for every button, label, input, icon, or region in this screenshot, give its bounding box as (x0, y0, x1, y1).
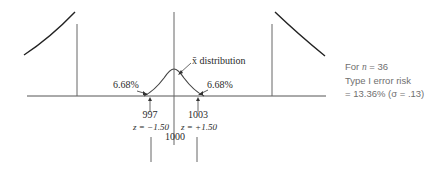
lower-limit-arrowhead (148, 97, 152, 101)
upper-limit-arrowhead (196, 97, 200, 101)
right-tail-percent: 6.68% (207, 79, 233, 90)
lower-z-value: z = −1.50 (132, 122, 169, 132)
left-tail-percent: 6.68% (113, 79, 139, 90)
distribution-label: x̄ distribution (192, 55, 246, 66)
upper-z-value: z = +1.50 (180, 122, 217, 132)
mean-value: 1000 (165, 131, 185, 142)
note-line-error-risk-label: Type I error risk (345, 74, 424, 87)
note-line-sample-size: For n = 36 (345, 60, 424, 74)
error-risk-note: For n = 36 Type I error risk = 13.36% (σ… (345, 60, 424, 100)
note-line-error-risk-value: = 13.36% (σ = .13) (345, 87, 424, 100)
left-tail-arrowhead (143, 91, 148, 95)
lower-limit-value: 997 (143, 109, 158, 120)
upper-limit-value: 1003 (188, 109, 208, 120)
left-distribution-curve (24, 12, 75, 55)
right-distribution-curve (275, 12, 325, 56)
